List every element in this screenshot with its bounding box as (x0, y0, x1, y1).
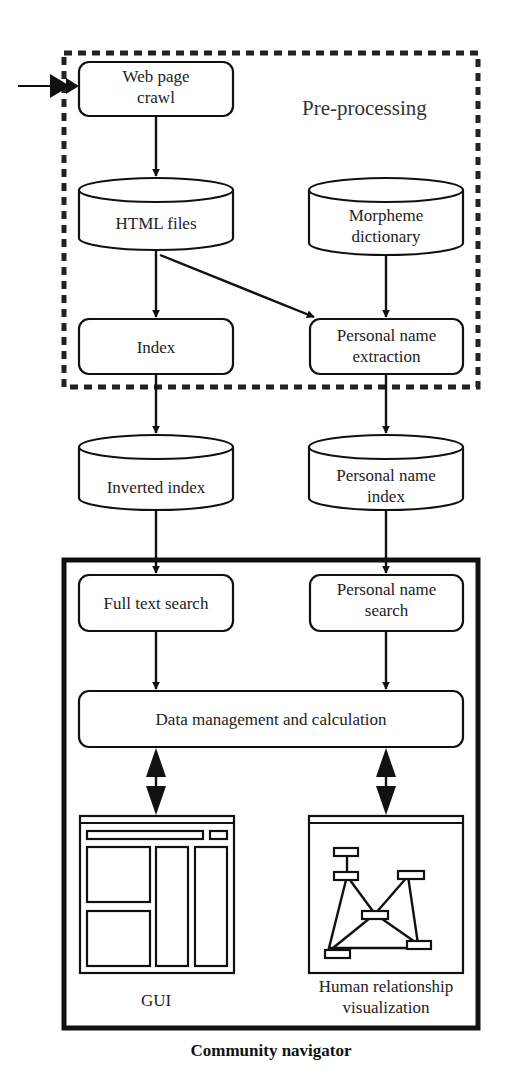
visualization-line2: visualization (290, 997, 482, 1018)
entry-arrow (18, 74, 79, 98)
morpheme-line2: dictionary (309, 226, 463, 247)
name-index-line2: index (309, 486, 463, 507)
gui-bidirectional-arrow (146, 748, 166, 815)
web-crawl-label: Web page crawl (79, 66, 233, 108)
index-label: Index (79, 337, 233, 358)
gui-label: GUI (79, 990, 233, 1011)
name-extraction-line1: Personal name (310, 325, 463, 346)
name-search-line2: search (310, 600, 463, 621)
name-index-line1: Personal name (309, 465, 463, 486)
name-extraction-line2: extraction (310, 346, 463, 367)
morpheme-dictionary-label: Morpheme dictionary (309, 205, 463, 247)
preprocessing-title: Pre-processing (302, 96, 427, 121)
web-crawl-line1: Web page (79, 66, 233, 87)
community-navigator-caption: Community navigator (64, 1041, 478, 1061)
name-search-line1: Personal name (310, 579, 463, 600)
visualization-bidirectional-arrow (376, 748, 396, 815)
full-text-search-label: Full text search (79, 593, 233, 614)
inverted-index-cylinder (79, 435, 233, 510)
morpheme-line1: Morpheme (309, 205, 463, 226)
gui-window-icon (80, 816, 234, 973)
web-crawl-line2: crawl (79, 87, 233, 108)
html-files-label: HTML files (79, 213, 233, 234)
inverted-index-label: Inverted index (79, 477, 233, 498)
visualization-line1: Human relationship (290, 976, 482, 997)
name-index-label: Personal name index (309, 465, 463, 507)
name-search-label: Personal name search (310, 579, 463, 621)
data-management-label: Data management and calculation (79, 709, 463, 730)
visualization-label: Human relationship visualization (290, 976, 482, 1018)
name-extraction-label: Personal name extraction (310, 325, 463, 367)
graph-window-icon (309, 816, 463, 973)
diagram-canvas (0, 0, 509, 1089)
